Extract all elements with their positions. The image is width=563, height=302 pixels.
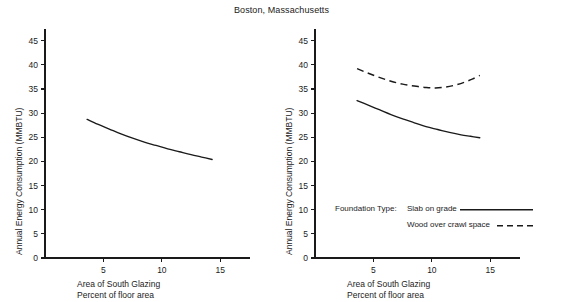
- chart-panel-right: Annual Energy Consumption (MMBTU) 051015…: [270, 0, 551, 302]
- svg-text:10: 10: [29, 205, 39, 215]
- data-line-slab-on-grade: [357, 101, 480, 138]
- svg-text:15: 15: [299, 181, 309, 191]
- legend-label-slab-on-grade: Slab on grade: [407, 204, 457, 213]
- svg-text:40: 40: [29, 60, 39, 70]
- svg-text:30: 30: [299, 108, 309, 118]
- svg-text:45: 45: [299, 36, 309, 46]
- x-axis-label-left: Area of South Glazing Percent of floor a…: [77, 279, 160, 300]
- legend-label-wood-over-crawl-space: Wood over crawl space: [407, 220, 490, 229]
- plot-area-left: 051015202530354045 51015: [0, 0, 281, 302]
- x-axis-label-right-line1: Area of South Glazing: [347, 279, 430, 290]
- svg-text:40: 40: [299, 60, 309, 70]
- svg-text:25: 25: [299, 132, 309, 142]
- svg-text:15: 15: [216, 265, 226, 275]
- plot-area-right: 051015202530354045 51015: [270, 0, 551, 302]
- legend-title: Foundation Type:: [335, 204, 397, 213]
- y-ticks-left: 051015202530354045: [29, 36, 45, 263]
- x-axis-label-left-line2: Percent of floor area: [77, 290, 160, 301]
- svg-text:5: 5: [303, 229, 308, 239]
- svg-text:35: 35: [299, 84, 309, 94]
- x-axis-label-left-line1: Area of South Glazing: [77, 279, 160, 290]
- data-line-wood-over-crawl-space: [357, 69, 480, 88]
- svg-text:5: 5: [101, 265, 106, 275]
- svg-text:45: 45: [29, 36, 39, 46]
- svg-text:15: 15: [486, 265, 496, 275]
- chart-panel-left: Annual Energy Consumption (MMBTU) 051015…: [0, 0, 281, 302]
- svg-text:0: 0: [303, 253, 308, 263]
- svg-text:35: 35: [29, 84, 39, 94]
- svg-text:10: 10: [299, 205, 309, 215]
- svg-text:10: 10: [427, 265, 437, 275]
- svg-text:20: 20: [299, 156, 309, 166]
- x-axis-label-right-line2: Percent of floor area: [347, 290, 430, 301]
- svg-text:10: 10: [157, 265, 167, 275]
- svg-text:0: 0: [33, 253, 38, 263]
- x-ticks-left: 51015: [101, 258, 225, 275]
- svg-text:20: 20: [29, 156, 39, 166]
- svg-text:25: 25: [29, 132, 39, 142]
- y-ticks-right: 051015202530354045: [299, 36, 315, 263]
- svg-text:5: 5: [371, 265, 376, 275]
- x-ticks-right: 51015: [371, 258, 495, 275]
- svg-text:5: 5: [33, 229, 38, 239]
- svg-text:30: 30: [29, 108, 39, 118]
- x-axis-label-right: Area of South Glazing Percent of floor a…: [347, 279, 430, 300]
- data-line-annual-energy-consumption: [87, 119, 212, 159]
- figure-container: Boston, Massachusetts Annual Energy Cons…: [0, 0, 563, 302]
- svg-text:15: 15: [29, 181, 39, 191]
